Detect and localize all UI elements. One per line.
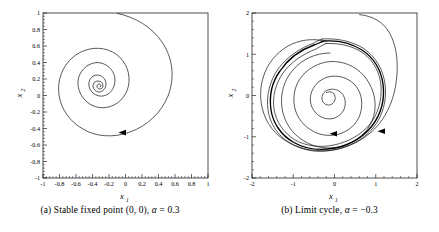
panel-a-xtick-3: -0.4 (88, 180, 98, 187)
panel-a-ytick-9: 0.8 (32, 26, 40, 33)
panel-a-ytick-7: 0.4 (32, 59, 40, 66)
panel-a-ytick-6: 0.2 (32, 75, 40, 82)
panel-a-xtick-4: -0.2 (104, 180, 114, 187)
panel-a-x-major-ticks (43, 174, 208, 178)
panel-b-ytick-0: -2 (244, 174, 249, 181)
panel-b-ylabel-base: x (225, 93, 235, 98)
panel-a-trajectory-spiral (59, 13, 173, 135)
panel-a-x-tick-labels: -1 -0.8 -0.6 -0.4 -0.2 0 0.2 0.4 0.6 0.8… (40, 180, 209, 187)
panel-a-xtick-8: 0.6 (171, 180, 179, 187)
panel-a-x-axis-title: x 1 (119, 191, 129, 203)
panel-a-ytick-0: -1 (35, 174, 40, 181)
panel-a-plot: -1 -0.8 -0.6 -0.4 -0.2 0 0.2 0.4 0.6 0.8… (0, 0, 220, 205)
panel-a-xtick-10: 1 (206, 180, 209, 187)
panel-b-plot: -2 -1 0 1 2 -2 -1 0 1 2 x 1 x 2 (220, 0, 439, 205)
panel-a-y-axis-title: x 2 (14, 88, 26, 98)
panel-a-xtick-0: -1 (40, 180, 45, 187)
panel-a-xtick-6: 0.2 (138, 180, 146, 187)
panel-a-ytick-5: 0 (37, 92, 40, 99)
panel-a-xtick-1: -0.8 (55, 180, 65, 187)
panel-a-caption-label: (a) (40, 205, 51, 215)
panel-a-xtick-9: 0.8 (188, 180, 196, 187)
panel-b-outer-inward-spiral (261, 15, 398, 151)
panel-b-limit-cycle: -2 -1 0 1 2 -2 -1 0 1 2 x 1 x 2 (220, 0, 439, 232)
panel-b-limit-cycle-overlay-2 (267, 39, 385, 152)
panel-a-xtick-5: 0 (124, 180, 127, 187)
panel-b-xtick-0: -2 (249, 180, 254, 187)
panel-a-caption-parameter-symbol: α (152, 205, 157, 215)
panel-a-y-tick-labels: -1 -0.8 -0.6 -0.4 -0.2 0 0.2 0.4 0.6 0.8… (30, 9, 40, 181)
panel-b-xlabel-base: x (328, 191, 333, 201)
panel-a-ytick-10: 1 (37, 9, 40, 16)
panel-a-stable-fixed-point: -1 -0.8 -0.6 -0.4 -0.2 0 0.2 0.4 0.6 0.8… (0, 0, 220, 232)
panel-a-ytick-4: -0.2 (30, 108, 40, 115)
panel-a-ylabel-sub: 2 (20, 88, 26, 91)
panel-a-ylabel-base: x (14, 93, 24, 98)
panel-b-caption-parameter-symbol: α (345, 205, 350, 215)
panel-b-limit-cycle (270, 41, 383, 150)
panel-b-ylabel-sub: 2 (231, 88, 237, 91)
panel-a-y-major-ticks (43, 13, 47, 178)
panel-a-xlabel-base: x (119, 191, 124, 201)
panel-b-ytick-3: 1 (246, 51, 249, 58)
panel-b-ytick-1: -1 (244, 133, 249, 140)
panel-b-y-axis-title: x 2 (225, 88, 237, 98)
panel-b-caption-description: Limit cycle, (295, 205, 342, 215)
panel-b-ytick-2: 0 (246, 92, 249, 99)
figure-container: -1 -0.8 -0.6 -0.4 -0.2 0 0.2 0.4 0.6 0.8… (0, 0, 439, 232)
panel-b-xtick-1: -1 (291, 180, 296, 187)
panel-a-caption-description: Stable fixed point (0, 0), (54, 205, 150, 215)
panel-a-xtick-2: -0.6 (71, 180, 81, 187)
panel-a-ytick-8: 0.6 (32, 42, 40, 49)
panel-a-ytick-3: -0.4 (30, 125, 40, 132)
panel-a-ytick-2: -0.6 (30, 141, 40, 148)
panel-b-y-tick-labels: -2 -1 0 1 2 (244, 9, 249, 181)
panel-b-outer-flow-direction-arrow (378, 129, 386, 135)
panel-b-xtick-4: 2 (415, 180, 418, 187)
panel-b-caption-equals: = (352, 205, 357, 215)
panel-b-x-tick-labels: -2 -1 0 1 2 (249, 180, 418, 187)
panel-b-caption-label: (b) (281, 205, 292, 215)
panel-a-xtick-7: 0.4 (155, 180, 163, 187)
panel-b-caption-parameter-value: −0.3 (360, 205, 378, 215)
panel-a-caption-parameter-value: 0.3 (167, 205, 179, 215)
panel-a-caption: (a) Stable fixed point (0, 0), α = 0.3 (0, 205, 220, 215)
panel-a-axes-frame (43, 13, 208, 178)
panel-b-caption: (b) Limit cycle, α = −0.3 (220, 205, 439, 215)
panel-b-xlabel-sub: 1 (335, 197, 338, 203)
panel-b-ytick-4: 2 (246, 9, 249, 16)
panel-a-caption-equals: = (159, 205, 164, 215)
panel-a-xlabel-sub: 1 (126, 197, 129, 203)
panel-b-inner-flow-direction-arrow (330, 131, 338, 137)
panel-b-xtick-2: 0 (333, 180, 336, 187)
panel-b-xtick-3: 1 (374, 180, 377, 187)
panel-b-x-axis-title: x 1 (328, 191, 338, 203)
panel-a-ytick-1: -0.8 (30, 158, 40, 165)
panel-b-inner-outward-spiral (281, 53, 375, 148)
